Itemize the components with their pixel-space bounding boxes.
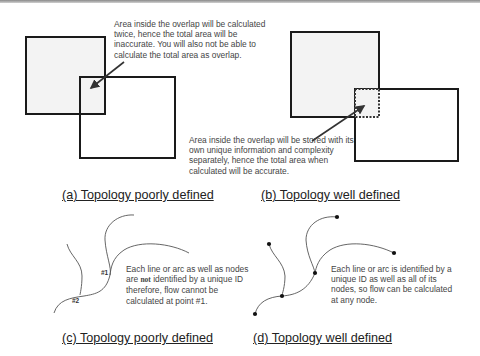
panel-c-arc-left — [67, 244, 82, 295]
panel-b-overlap-polygon — [355, 89, 379, 117]
point-label-2: #2 — [72, 297, 79, 304]
node — [253, 312, 257, 316]
panel-c-note-not: not — [140, 275, 150, 284]
node — [335, 215, 339, 219]
caption-b: (b) Topology well defined — [261, 188, 400, 202]
node — [267, 242, 271, 246]
panel-b-note: Area inside the overlap will be stored w… — [189, 135, 354, 176]
panel-a-note: Area inside the overlap will be calculat… — [114, 19, 265, 60]
caption-d: (d) Topology well defined — [253, 331, 392, 345]
node — [392, 251, 396, 255]
panel-d-note: Each line or arc is identified by a uniq… — [331, 264, 452, 305]
caption-a: (a) Topology poorly defined — [62, 188, 214, 202]
panel-c-note: Each line or arc as well as nodes are no… — [126, 264, 248, 306]
panel-d-arc-left — [269, 244, 285, 296]
point-label-1: #1 — [101, 269, 108, 276]
caption-c: (c) Topology poorly defined — [62, 331, 213, 345]
node — [313, 271, 317, 275]
panel-a-polygon-1 — [26, 37, 105, 114]
node — [280, 294, 284, 298]
